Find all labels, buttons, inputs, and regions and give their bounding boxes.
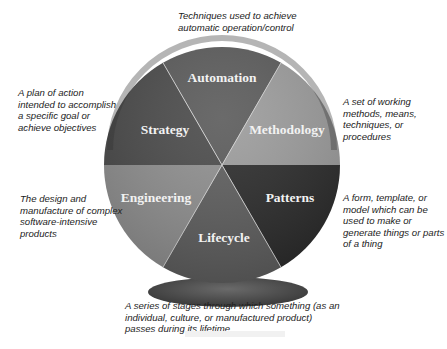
description-methodology: A set of working methods, means, techniq… <box>343 96 443 142</box>
description-engineering: The design and manufacture of complex so… <box>20 193 125 239</box>
label-methodology: Methodology <box>249 122 325 137</box>
label-patterns: Patterns <box>266 190 315 205</box>
label-automation: Automation <box>187 70 256 85</box>
faint-bleed-through <box>185 331 285 337</box>
description-patterns: A form, template, or model which can be … <box>343 192 445 250</box>
wheel-diagram: Automation Methodology Patterns Lifecycl… <box>0 0 447 349</box>
label-engineering: Engineering <box>121 190 192 205</box>
description-lifecycle: A series of stages through which somethi… <box>125 300 345 335</box>
label-lifecycle: Lifecycle <box>198 230 250 245</box>
label-strategy: Strategy <box>141 122 190 137</box>
description-automation: Techniques used to achieve automatic ope… <box>178 10 298 33</box>
description-strategy: A plan of action intended to accomplish … <box>18 87 118 133</box>
